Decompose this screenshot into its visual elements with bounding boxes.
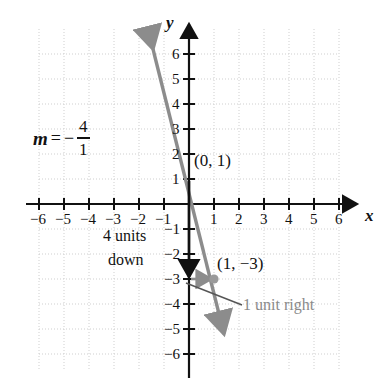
y-tick-label: −5	[164, 322, 180, 337]
graph-figure: −6 −5 −4 −3 −2 −1 1 2 3 4 5 6 6 5 4 3 2 …	[0, 0, 387, 391]
x-tick-label: 3	[260, 212, 268, 227]
slope-variable: m	[33, 129, 48, 148]
point-marker-1-neg3	[209, 274, 218, 283]
y-tick-label: 1	[172, 172, 180, 187]
coordinate-plane	[0, 0, 387, 391]
x-tick-label: 2	[235, 212, 243, 227]
slope-numerator: 4	[77, 118, 90, 135]
y-tick-label: −4	[164, 297, 180, 312]
x-tick-label: −5	[55, 212, 71, 227]
x-tick-label: 4	[285, 212, 293, 227]
y-tick-label: −1	[164, 222, 180, 237]
point-label-second: (1, −3)	[217, 255, 263, 272]
y-tick-label: 5	[172, 72, 180, 87]
rise-note-line1: 4 units	[103, 228, 146, 244]
y-tick-label: 4	[172, 97, 180, 112]
x-tick-label: 6	[335, 212, 343, 227]
x-tick-label: −6	[30, 212, 46, 227]
y-tick-label: 3	[172, 122, 180, 137]
x-tick-label: −4	[80, 212, 96, 227]
x-axis-label: x	[365, 207, 374, 224]
y-tick-label: −6	[164, 347, 180, 362]
x-tick-label: 5	[310, 212, 318, 227]
x-tick-label: 1	[210, 212, 218, 227]
y-tick-label: −2	[164, 247, 180, 262]
rise-note-line2: down	[108, 252, 144, 268]
slope-annotation: m = − 4 1	[33, 118, 90, 158]
y-tick-label: −3	[164, 272, 180, 287]
point-label-y-intercept: (0, 1)	[194, 152, 231, 169]
slope-equals: =	[51, 129, 61, 147]
x-tick-label: −2	[130, 212, 146, 227]
x-tick-label: −3	[105, 212, 121, 227]
fraction-bar	[77, 137, 90, 139]
y-axis-label: y	[166, 14, 174, 31]
slope-fraction: 4 1	[77, 118, 90, 158]
run-leader-line	[186, 283, 242, 305]
y-tick-label: 2	[172, 147, 180, 162]
run-note: 1 unit right	[243, 297, 314, 313]
slope-minus: −	[64, 129, 74, 147]
y-tick-label: 6	[172, 47, 180, 62]
slope-denominator: 1	[77, 141, 90, 158]
